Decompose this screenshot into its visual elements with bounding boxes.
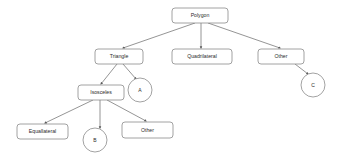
- edges-layer: [45, 23, 308, 128]
- polygon-hierarchy-diagram: PolygonTriangleQuadrilateralOtherIsoscel…: [0, 0, 343, 166]
- node-label-other-top: Other: [275, 53, 288, 59]
- node-circle-a[interactable]: A: [128, 78, 152, 102]
- edge-polygon-triangle: [123, 23, 195, 48]
- node-quadrilateral[interactable]: Quadrilateral: [172, 49, 232, 64]
- node-polygon[interactable]: Polygon: [172, 8, 228, 23]
- edge-triangle-a: [123, 64, 136, 79]
- nodes-layer: PolygonTriangleQuadrilateralOtherIsoscel…: [17, 8, 325, 152]
- node-other-bottom[interactable]: Other: [122, 122, 173, 138]
- edge-isosceles-other: [107, 100, 146, 121]
- diagram-canvas: PolygonTriangleQuadrilateralOtherIsoscel…: [0, 0, 343, 166]
- edge-triangle-isosceles: [101, 64, 117, 84]
- edge-isosceles-equallateral: [45, 100, 93, 123]
- node-label-isosceles: Isosceles: [90, 89, 112, 95]
- node-circle-b[interactable]: B: [83, 128, 107, 152]
- node-other-top[interactable]: Other: [258, 49, 304, 64]
- node-label-polygon: Polygon: [191, 12, 210, 18]
- node-label-other-bottom: Other: [141, 127, 154, 133]
- node-isosceles[interactable]: Isosceles: [78, 85, 124, 100]
- node-equallateral[interactable]: Equallateral: [17, 124, 68, 139]
- node-label-equallateral: Equallateral: [29, 128, 56, 134]
- edge-polygon-other: [208, 23, 280, 48]
- node-label-triangle: Triangle: [110, 53, 129, 59]
- node-circle-c[interactable]: C: [301, 73, 325, 97]
- node-label-circle-c: C: [311, 82, 315, 88]
- node-triangle[interactable]: Triangle: [95, 49, 143, 64]
- edge-other-c: [295, 64, 308, 74]
- node-label-quadrilateral: Quadrilateral: [187, 53, 217, 59]
